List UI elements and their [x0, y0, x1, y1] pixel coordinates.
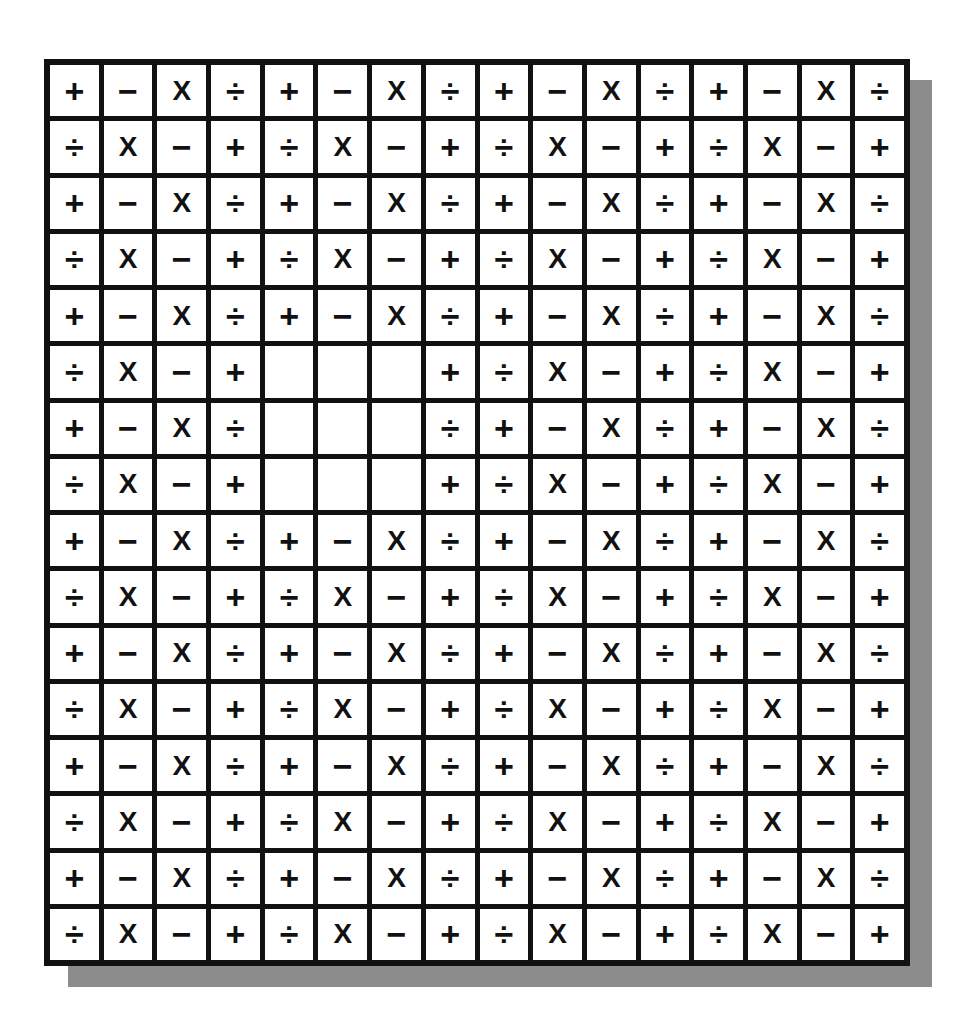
cell-div-symbol[interactable]: ÷ [211, 740, 260, 791]
cell-div-symbol[interactable]: ÷ [694, 121, 743, 172]
cell-minus-symbol[interactable]: − [157, 121, 206, 172]
cell-plus-symbol[interactable]: + [641, 796, 690, 847]
cell-plus-symbol[interactable]: + [265, 290, 314, 341]
cell-div-symbol[interactable]: ÷ [641, 178, 690, 229]
cell-div-symbol[interactable]: ÷ [426, 628, 475, 679]
cell-div-symbol[interactable]: ÷ [480, 571, 529, 622]
cell-div-symbol[interactable]: ÷ [265, 909, 314, 960]
cell-minus-symbol[interactable]: − [802, 796, 851, 847]
cell-x-symbol[interactable]: X [802, 853, 851, 904]
cell-x-symbol[interactable]: X [318, 684, 367, 735]
cell-minus-symbol[interactable]: − [587, 796, 636, 847]
cell-x-symbol[interactable]: X [318, 234, 367, 285]
cell-div-symbol[interactable]: ÷ [211, 628, 260, 679]
cell-plus-symbol[interactable]: + [855, 909, 904, 960]
cell-plus-symbol[interactable]: + [211, 909, 260, 960]
cell-minus-symbol[interactable]: − [802, 234, 851, 285]
cell-div-symbol[interactable]: ÷ [694, 346, 743, 397]
cell-div-symbol[interactable]: ÷ [855, 740, 904, 791]
cell-plus-symbol[interactable]: + [480, 290, 529, 341]
cell-minus-symbol[interactable]: − [802, 909, 851, 960]
cell-plus-symbol[interactable]: + [855, 121, 904, 172]
cell-empty[interactable] [265, 459, 314, 510]
cell-minus-symbol[interactable]: − [157, 684, 206, 735]
cell-plus-symbol[interactable]: + [426, 571, 475, 622]
cell-x-symbol[interactable]: X [372, 515, 421, 566]
cell-x-symbol[interactable]: X [104, 796, 153, 847]
cell-x-symbol[interactable]: X [157, 515, 206, 566]
cell-plus-symbol[interactable]: + [855, 571, 904, 622]
cell-div-symbol[interactable]: ÷ [265, 121, 314, 172]
cell-minus-symbol[interactable]: − [372, 684, 421, 735]
cell-x-symbol[interactable]: X [587, 740, 636, 791]
cell-minus-symbol[interactable]: − [533, 853, 582, 904]
cell-minus-symbol[interactable]: − [157, 459, 206, 510]
cell-plus-symbol[interactable]: + [426, 234, 475, 285]
cell-div-symbol[interactable]: ÷ [211, 290, 260, 341]
cell-div-symbol[interactable]: ÷ [211, 515, 260, 566]
cell-div-symbol[interactable]: ÷ [641, 290, 690, 341]
cell-minus-symbol[interactable]: − [587, 234, 636, 285]
cell-x-symbol[interactable]: X [748, 571, 797, 622]
cell-plus-symbol[interactable]: + [480, 740, 529, 791]
cell-div-symbol[interactable]: ÷ [480, 121, 529, 172]
cell-x-symbol[interactable]: X [157, 740, 206, 791]
cell-minus-symbol[interactable]: − [157, 796, 206, 847]
cell-x-symbol[interactable]: X [372, 740, 421, 791]
cell-x-symbol[interactable]: X [533, 346, 582, 397]
cell-minus-symbol[interactable]: − [104, 628, 153, 679]
cell-empty[interactable] [372, 346, 421, 397]
cell-div-symbol[interactable]: ÷ [855, 853, 904, 904]
cell-minus-symbol[interactable]: − [372, 571, 421, 622]
cell-plus-symbol[interactable]: + [641, 909, 690, 960]
cell-plus-symbol[interactable]: + [641, 234, 690, 285]
cell-plus-symbol[interactable]: + [694, 290, 743, 341]
cell-x-symbol[interactable]: X [587, 628, 636, 679]
cell-x-symbol[interactable]: X [802, 515, 851, 566]
cell-minus-symbol[interactable]: − [802, 459, 851, 510]
cell-x-symbol[interactable]: X [157, 65, 206, 116]
cell-minus-symbol[interactable]: − [533, 178, 582, 229]
cell-minus-symbol[interactable]: − [157, 909, 206, 960]
cell-div-symbol[interactable]: ÷ [50, 121, 99, 172]
cell-plus-symbol[interactable]: + [641, 684, 690, 735]
cell-minus-symbol[interactable]: − [318, 740, 367, 791]
cell-minus-symbol[interactable]: − [372, 909, 421, 960]
cell-minus-symbol[interactable]: − [157, 571, 206, 622]
cell-plus-symbol[interactable]: + [211, 459, 260, 510]
cell-x-symbol[interactable]: X [587, 853, 636, 904]
cell-plus-symbol[interactable]: + [50, 740, 99, 791]
cell-x-symbol[interactable]: X [372, 853, 421, 904]
cell-x-symbol[interactable]: X [587, 515, 636, 566]
cell-plus-symbol[interactable]: + [855, 234, 904, 285]
cell-div-symbol[interactable]: ÷ [50, 234, 99, 285]
cell-minus-symbol[interactable]: − [533, 290, 582, 341]
cell-div-symbol[interactable]: ÷ [855, 403, 904, 454]
cell-minus-symbol[interactable]: − [372, 234, 421, 285]
cell-plus-symbol[interactable]: + [694, 853, 743, 904]
cell-x-symbol[interactable]: X [748, 459, 797, 510]
cell-plus-symbol[interactable]: + [211, 346, 260, 397]
cell-x-symbol[interactable]: X [748, 234, 797, 285]
cell-div-symbol[interactable]: ÷ [694, 796, 743, 847]
cell-div-symbol[interactable]: ÷ [641, 65, 690, 116]
cell-x-symbol[interactable]: X [318, 121, 367, 172]
cell-div-symbol[interactable]: ÷ [50, 459, 99, 510]
cell-plus-symbol[interactable]: + [426, 684, 475, 735]
cell-empty[interactable] [318, 459, 367, 510]
cell-div-symbol[interactable]: ÷ [694, 571, 743, 622]
cell-x-symbol[interactable]: X [533, 234, 582, 285]
cell-div-symbol[interactable]: ÷ [426, 178, 475, 229]
cell-x-symbol[interactable]: X [748, 796, 797, 847]
cell-div-symbol[interactable]: ÷ [855, 178, 904, 229]
cell-div-symbol[interactable]: ÷ [211, 403, 260, 454]
cell-div-symbol[interactable]: ÷ [265, 571, 314, 622]
cell-x-symbol[interactable]: X [157, 178, 206, 229]
cell-plus-symbol[interactable]: + [480, 853, 529, 904]
cell-empty[interactable] [265, 346, 314, 397]
cell-plus-symbol[interactable]: + [694, 628, 743, 679]
cell-minus-symbol[interactable]: − [587, 121, 636, 172]
cell-div-symbol[interactable]: ÷ [694, 909, 743, 960]
cell-minus-symbol[interactable]: − [748, 628, 797, 679]
cell-minus-symbol[interactable]: − [587, 571, 636, 622]
